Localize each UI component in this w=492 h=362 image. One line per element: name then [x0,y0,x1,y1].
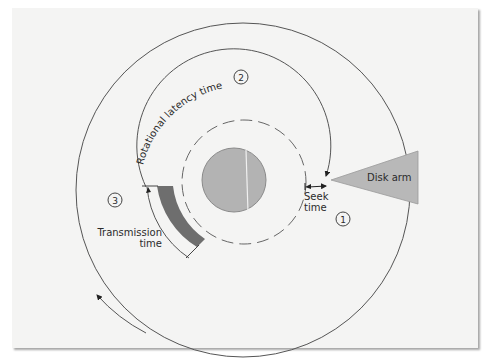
transmission-time-label-line2: time [139,238,162,249]
transmission-bracket-bottom [186,245,199,258]
step-3-marker: 3 [108,193,122,207]
step-2-marker: 2 [234,70,248,84]
seek-time-label-line2: time [304,202,327,213]
disk-arm-label: Disk arm [367,172,411,183]
transmission-time-label-line1: Transmission [96,227,162,238]
rotational-latency-label: Rotational latency time [134,80,223,166]
seek-time-label-line1: Seek [304,191,329,202]
transmission-sector [157,186,205,247]
step-1-number: 1 [340,215,346,225]
step-3-number: 3 [112,196,118,206]
step-1-marker: 1 [336,212,350,226]
spindle-hub [202,148,266,212]
disk-diagram: Rotational latency time Disk arm Seek ti… [0,0,492,362]
rotation-direction-arrow [97,295,146,333]
step-2-number: 2 [238,73,244,83]
